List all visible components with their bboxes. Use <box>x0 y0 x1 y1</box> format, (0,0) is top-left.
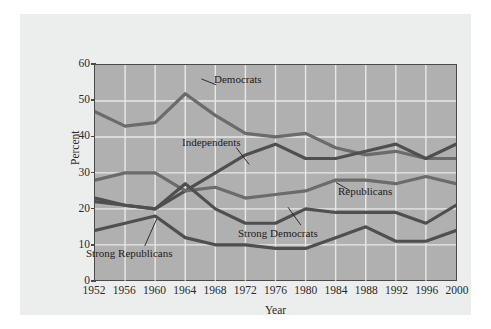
x-tick-1992: 1992 <box>385 285 408 297</box>
republicans-label: Republicans <box>338 186 392 197</box>
y-axis-title: Percent <box>70 88 82 208</box>
x-axis-title: Year <box>94 305 457 317</box>
strong-democrats-label: Strong Democrats <box>238 228 318 239</box>
figure-panel: 6050403020100 Percent 195219561960196419… <box>20 14 471 315</box>
independents-label: Independents <box>182 137 241 148</box>
leader-line <box>236 148 249 165</box>
x-tick-1972: 1972 <box>234 285 257 297</box>
x-tick-1984: 1984 <box>325 285 348 297</box>
x-tick-1956: 1956 <box>113 285 136 297</box>
x-axis-tick-labels: 1952195619601964196819721976198019841988… <box>94 285 457 301</box>
y-tick-60: 60 <box>79 58 91 70</box>
chart-page: 6050403020100 Percent 195219561960196419… <box>0 0 491 329</box>
x-tick-1960: 1960 <box>143 285 166 297</box>
democrats-label: Democrats <box>214 74 262 85</box>
x-tick-1988: 1988 <box>355 285 378 297</box>
x-tick-1952: 1952 <box>83 285 106 297</box>
x-tick-1964: 1964 <box>173 285 196 297</box>
x-tick-2000: 2000 <box>446 285 469 297</box>
strong-republicans-label: Strong Republicans <box>86 248 172 259</box>
x-tick-1996: 1996 <box>415 285 438 297</box>
x-tick-1980: 1980 <box>294 285 317 297</box>
x-tick-1976: 1976 <box>264 285 287 297</box>
x-tick-1968: 1968 <box>204 285 227 297</box>
